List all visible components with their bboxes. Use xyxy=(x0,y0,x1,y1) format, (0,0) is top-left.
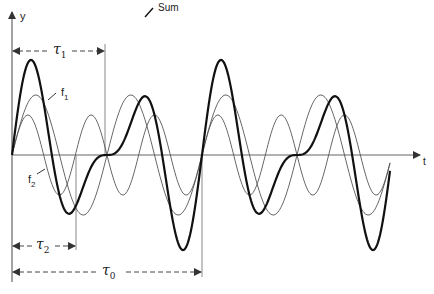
superposition-diagram: y t τ1 τ2 τ0 Sum f1 f2 xyxy=(0,0,434,294)
sum-leader-line xyxy=(145,8,153,17)
sum-label: Sum xyxy=(158,2,179,13)
tau2-label: τ2 xyxy=(36,236,49,255)
f1-label: f1 xyxy=(61,86,69,102)
tau1-label: τ1 xyxy=(53,41,66,60)
y-axis-label: y xyxy=(20,10,26,22)
tau0-label: τ0 xyxy=(102,262,116,281)
f2-label: f2 xyxy=(28,173,36,189)
x-axis-label: t xyxy=(423,156,426,167)
f2-leader-line xyxy=(37,169,45,174)
f1-leader-line xyxy=(48,93,56,100)
